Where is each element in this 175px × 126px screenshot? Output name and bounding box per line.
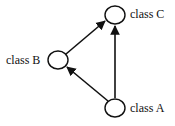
- node-b-circle: [48, 51, 68, 69]
- node-a-circle: [105, 99, 125, 117]
- node-c-circle: [105, 6, 125, 24]
- node-b-label: class B: [6, 53, 40, 67]
- node-a-label: class A: [130, 101, 164, 115]
- edge-a-to-b: [67, 67, 108, 101]
- edge-b-to-c: [66, 21, 105, 54]
- node-c-label: class C: [130, 7, 164, 21]
